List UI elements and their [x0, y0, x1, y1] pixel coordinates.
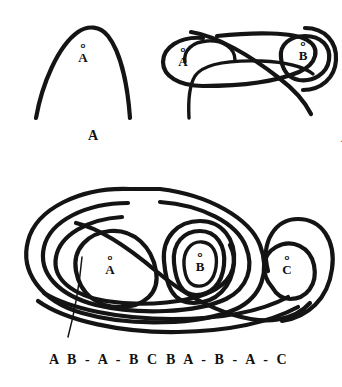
- node-a: o A: [99, 254, 121, 276]
- node-c-dot: o: [276, 254, 298, 262]
- node-b: o B: [292, 40, 314, 62]
- node-a-letter: A: [99, 263, 121, 276]
- node-a-letter: A: [72, 51, 94, 64]
- node-a-dot: o: [172, 46, 194, 54]
- panel-3-caption: A B - A - B C B A - B - A - C: [49, 352, 289, 368]
- node-a-dot: o: [72, 42, 94, 50]
- node-b-letter: B: [292, 49, 314, 62]
- node-a-dot: o: [99, 254, 121, 262]
- panel-three-loops: o A o B o C: [10, 175, 340, 350]
- node-a: o A: [72, 42, 94, 64]
- drawing-sheet: o A A o A o B A B - A - B: [0, 0, 342, 387]
- node-b-dot: o: [292, 40, 314, 48]
- node-a: o A: [172, 46, 194, 68]
- node-b: o B: [189, 251, 211, 273]
- node-b-dot: o: [189, 251, 211, 259]
- node-b-letter: B: [189, 260, 211, 273]
- panel-single-arch: o A A: [30, 18, 160, 138]
- node-c: o C: [276, 254, 298, 276]
- panel-two-loops: o A o B A B - A - B: [155, 18, 340, 140]
- panel-1-caption: A: [88, 128, 98, 144]
- node-c-letter: C: [276, 263, 298, 276]
- node-a-letter: A: [172, 55, 194, 68]
